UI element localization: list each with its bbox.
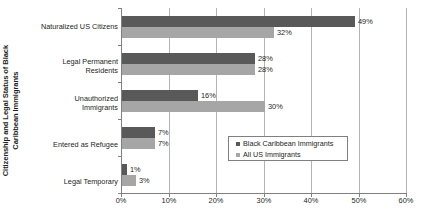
- bar: [122, 53, 255, 64]
- bar: [122, 101, 265, 112]
- bar-value-label: 30%: [268, 101, 283, 112]
- legend: Black Caribbean Immigrants All US Immigr…: [228, 136, 348, 161]
- legend-swatch-icon: [236, 153, 240, 157]
- category-label-line: Unauthorized: [20, 94, 118, 103]
- x-axis-tick-label: 50%: [339, 196, 379, 205]
- y-axis-tick: [118, 119, 122, 120]
- bar-value-label: 28%: [258, 53, 273, 64]
- bar: [122, 138, 155, 149]
- y-axis-title-line-1: Citizenship and Legal Status of Black: [1, 16, 11, 206]
- category-label-unauthorized-immigrants: Unauthorized Immigrants: [20, 94, 118, 112]
- y-axis-tick: [118, 8, 122, 9]
- category-label-entered-as-refugee: Entered as Refugee: [20, 140, 118, 149]
- bar-value-label: 28%: [258, 64, 273, 75]
- bar: [122, 127, 155, 138]
- y-axis-tick: [118, 156, 122, 157]
- y-axis-tick: [118, 82, 122, 83]
- gridline: [311, 8, 312, 193]
- bar-value-label: 7%: [158, 127, 169, 138]
- bar: [122, 27, 274, 38]
- y-axis-tick: [118, 193, 122, 194]
- bar: [122, 164, 127, 175]
- y-axis-title: Citizenship and Legal Status of Black Ca…: [1, 16, 20, 206]
- category-label-line: Naturalized US Citizens: [20, 22, 118, 31]
- bar-value-label: 7%: [158, 138, 169, 149]
- bar: [122, 16, 355, 27]
- legend-label: Black Caribbean Immigrants: [243, 140, 333, 148]
- category-label-line: Immigrants: [20, 103, 118, 112]
- x-axis-tick-label: 0%: [101, 196, 141, 205]
- x-axis-tick-label: 10%: [149, 196, 189, 205]
- y-axis-tick: [118, 45, 122, 46]
- category-label-legal-temporary: Legal Temporary: [20, 177, 118, 186]
- category-label-line: Legal Permanent: [20, 57, 118, 66]
- gridline: [359, 8, 360, 193]
- bar-value-label: 16%: [201, 90, 216, 101]
- legend-item-all-us-immigrants: All US Immigrants: [236, 150, 347, 160]
- category-label-legal-permanent-residents: Legal Permanent Residents: [20, 57, 118, 75]
- bar-value-label: 3%: [139, 175, 150, 186]
- bar-chart: Citizenship and Legal Status of Black Ca…: [0, 0, 424, 222]
- legend-item-black-caribbean-immigrants: Black Caribbean Immigrants: [236, 139, 347, 149]
- x-axis-tick-label: 30%: [244, 196, 284, 205]
- gridline: [406, 8, 407, 193]
- bar: [122, 90, 198, 101]
- bar-value-label: 32%: [277, 27, 292, 38]
- category-label-line: Residents: [20, 66, 118, 75]
- category-label-line: Entered as Refugee: [20, 140, 118, 149]
- bar: [122, 175, 136, 186]
- bar-value-label: 49%: [358, 16, 373, 27]
- legend-swatch-icon: [236, 142, 240, 146]
- bar-value-label: 1%: [130, 164, 141, 175]
- x-axis-tick-label: 60%: [386, 196, 424, 205]
- category-label-naturalized-us-citizens: Naturalized US Citizens: [20, 22, 118, 31]
- x-axis-tick-label: 20%: [196, 196, 236, 205]
- legend-label: All US Immigrants: [243, 151, 301, 159]
- category-label-line: Legal Temporary: [20, 177, 118, 186]
- x-axis-tick-label: 40%: [291, 196, 331, 205]
- bar: [122, 64, 255, 75]
